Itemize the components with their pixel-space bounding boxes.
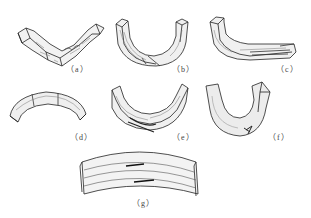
specimen-c [210, 17, 296, 60]
specimen-a [18, 24, 104, 66]
specimen-g [80, 152, 198, 196]
label-a: （a） [66, 63, 89, 74]
label-b: （b） [172, 63, 195, 74]
label-d: （d） [70, 131, 93, 142]
specimen-e [112, 84, 188, 132]
label-e: （e） [172, 131, 195, 142]
diagram-drawing [0, 0, 311, 218]
label-f: （f） [268, 131, 290, 142]
label-g: （g） [132, 197, 155, 208]
specimen-f [206, 82, 270, 136]
specimen-b [116, 19, 188, 66]
label-c: （c） [276, 63, 299, 74]
specimen-d [10, 92, 86, 122]
